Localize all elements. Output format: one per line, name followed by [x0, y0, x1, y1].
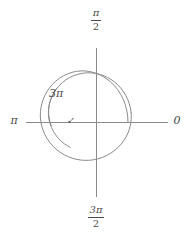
fraction-three-pi-over-2: 3π 2	[88, 205, 105, 229]
fraction-denominator: 2	[91, 22, 102, 33]
fraction-pi-over-2: π 2	[91, 8, 102, 32]
axes-group	[26, 48, 168, 197]
axis-label-zero: 0	[168, 115, 186, 126]
sweep-angle-label-three-pi: 3π	[49, 88, 79, 99]
axis-label-pi-over-2: π 2	[77, 8, 115, 33]
fraction-numerator: 3π	[88, 205, 105, 216]
figure-canvas: π 2 3π 2 π 0 3π	[0, 0, 192, 246]
fraction-denominator: 2	[88, 219, 105, 230]
fraction-numerator: π	[91, 8, 102, 19]
spiral-endpoint-marker	[68, 121, 71, 124]
axis-label-three-pi-over-2: 3π 2	[75, 205, 117, 230]
axis-label-pi: π	[5, 115, 23, 126]
spiral-arc-second-turn	[48, 73, 131, 148]
spiral-curve-group	[40, 71, 131, 160]
